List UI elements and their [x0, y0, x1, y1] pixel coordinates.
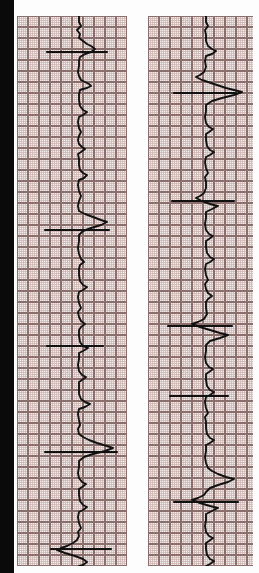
ecg-strip-2	[148, 16, 253, 566]
ecg-strip-1-canvas	[17, 16, 127, 566]
running-head-bar: Premature Ventricular Complexes	[0, 0, 14, 573]
ecg-strip-1	[17, 16, 127, 566]
page-title: Premature Ventricular Complexes	[0, 559, 14, 573]
figure-caption-label: Unifocal PVCs	[129, 557, 145, 573]
figure-caption: Unifocal PVCs	[129, 0, 145, 573]
figure-page: Premature Ventricular Complexes Unifocal…	[0, 0, 259, 573]
ecg-strip-2-canvas	[148, 16, 253, 566]
